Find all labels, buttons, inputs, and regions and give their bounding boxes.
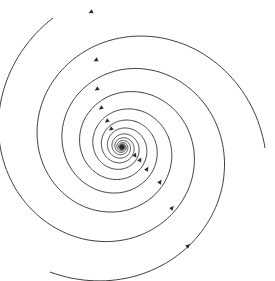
arrowhead-icon — [137, 158, 141, 163]
trajectory-spiral-b — [37, 36, 265, 212]
phase-portrait-diagram — [0, 0, 275, 281]
arrowhead-icon — [105, 118, 110, 123]
trajectories — [0, 18, 265, 281]
arrowhead-icon — [144, 167, 148, 172]
trajectory-spiral-c — [50, 69, 225, 281]
arrowhead-icon — [99, 105, 104, 110]
arrowhead-icon — [89, 9, 94, 13]
arrowhead-icon — [157, 180, 161, 185]
direction-arrows — [89, 9, 191, 249]
arrowhead-icon — [169, 206, 174, 211]
trajectory-spiral-a — [0, 18, 194, 242]
arrowhead-icon — [94, 57, 99, 61]
spiral-diagram — [0, 0, 275, 281]
arrowhead-icon — [109, 126, 114, 131]
arrowhead-icon — [95, 86, 100, 90]
fixed-point — [120, 145, 125, 150]
